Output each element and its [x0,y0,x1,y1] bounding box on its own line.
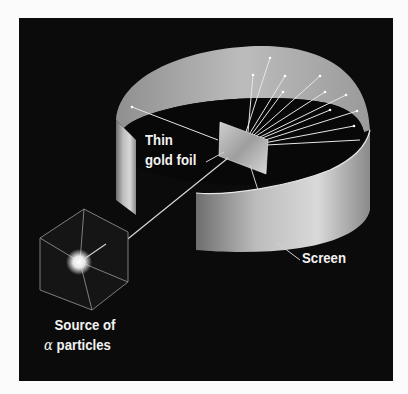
label-thin-gold-foil: Thin gold foil [145,130,196,170]
radioactive-source-glow [66,249,92,275]
label-foil-line2: gold foil [145,150,196,170]
label-screen: Screen [302,248,346,268]
label-source-line1: Source of [44,315,115,335]
alpha-symbol: α [44,336,53,354]
label-source: Source of α particles [44,315,115,355]
label-foil-line1: Thin [145,130,196,150]
label-source-line2: α particles [44,335,115,355]
